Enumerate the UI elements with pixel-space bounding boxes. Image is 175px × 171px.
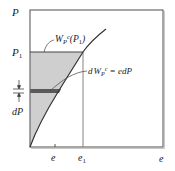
area-label-leader — [44, 40, 54, 52]
dP-dimension — [13, 80, 24, 102]
y-axis-label: P — [11, 6, 19, 18]
complementary-work-label: WPc(P1) — [55, 33, 85, 45]
dP-strip — [30, 89, 61, 93]
dP-label: dP — [12, 106, 23, 117]
diagram-canvas: P e P1 WPc(P1) dWPc = edP dP e e1 — [0, 0, 175, 171]
e1-label: e1 — [78, 152, 86, 165]
differential-work-label: dWPc = edP — [88, 66, 132, 77]
e-tick-label: e — [51, 152, 56, 163]
x-axis-label: e — [159, 153, 164, 164]
p1-label: P1 — [11, 46, 23, 60]
complementary-work-area — [30, 52, 83, 147]
